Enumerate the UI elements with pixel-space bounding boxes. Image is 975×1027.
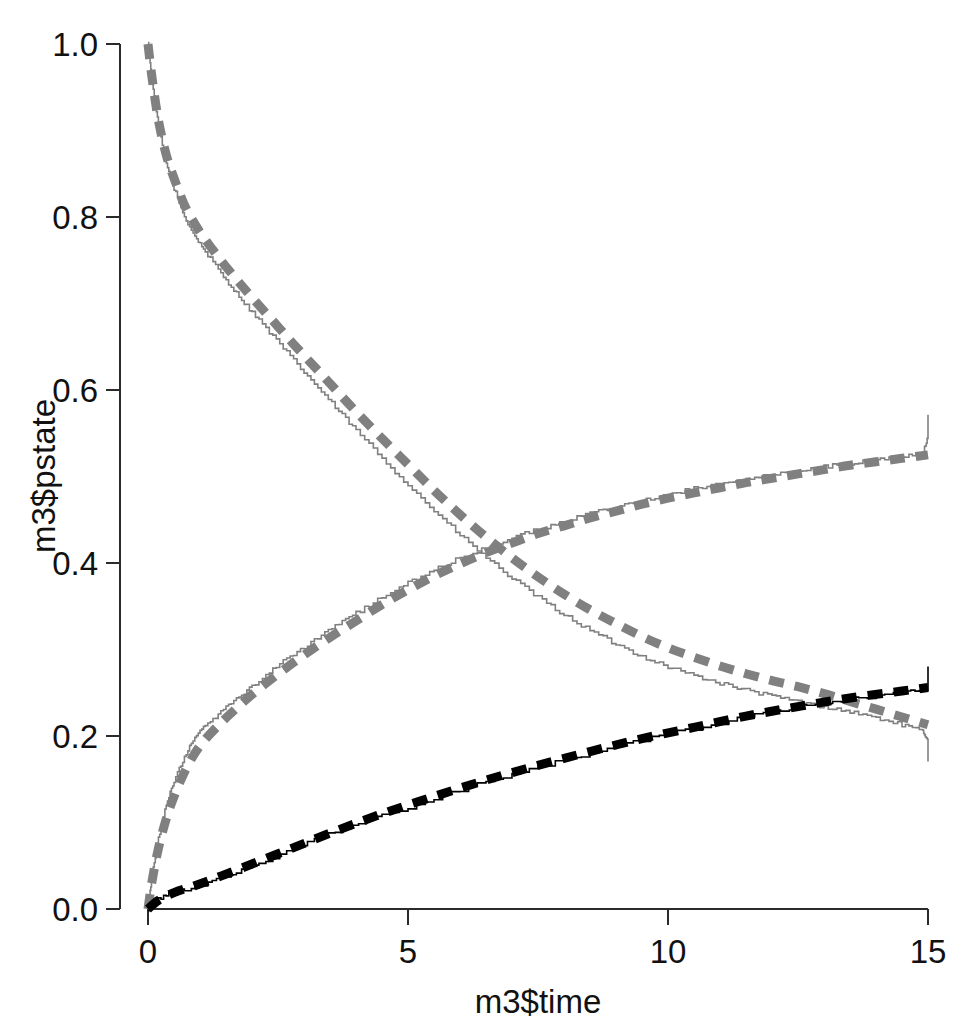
y-tick-label-0-8: 0.8	[52, 199, 98, 236]
figure-background	[0, 0, 975, 1027]
x-tick-label-10: 10	[650, 933, 687, 970]
plot-svg: 1.0 0.8 0.6 0.4 0.2 0.0 m3$pstate 0 5 10…	[0, 0, 975, 1027]
x-axis-title: m3$time	[475, 983, 602, 1020]
x-tick-label-5: 5	[399, 933, 417, 970]
chart-figure: 1.0 0.8 0.6 0.4 0.2 0.0 m3$pstate 0 5 10…	[0, 0, 975, 1027]
x-tick-label-15: 15	[910, 933, 947, 970]
y-tick-label-1-0: 1.0	[52, 26, 98, 63]
y-axis-title: m3$pstate	[25, 399, 62, 553]
x-tick-label-0: 0	[139, 933, 157, 970]
y-tick-label-0-0: 0.0	[52, 891, 98, 928]
y-tick-label-0-2: 0.2	[52, 718, 98, 755]
